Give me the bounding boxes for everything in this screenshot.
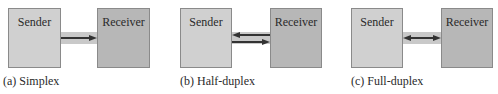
sender-label: Sender xyxy=(360,15,393,29)
arrow-right-icon xyxy=(89,35,97,41)
sender-label: Sender xyxy=(189,15,222,29)
caption: (c) Full-duplex xyxy=(351,74,423,89)
arrow-right-icon xyxy=(262,39,270,45)
receiver-box: Receiver xyxy=(441,8,493,68)
caption: (a) Simplex xyxy=(3,74,59,89)
arrow-line-left xyxy=(238,34,270,36)
arrow-line xyxy=(61,37,91,39)
receiver-box: Receiver xyxy=(270,8,322,68)
receiver-label: Receiver xyxy=(102,15,145,29)
arrow-right-icon xyxy=(433,35,441,41)
receiver-box: Receiver xyxy=(97,8,150,68)
panel-half-duplex: Sender Receiver (b) Half-duplex xyxy=(166,0,332,94)
caption: (b) Half-duplex xyxy=(180,74,255,89)
sender-box: Sender xyxy=(8,8,61,68)
receiver-label: Receiver xyxy=(446,15,489,29)
arrow-line-right xyxy=(232,41,264,43)
sender-box: Sender xyxy=(351,8,403,68)
sender-label: Sender xyxy=(18,15,51,29)
sender-box: Sender xyxy=(180,8,232,68)
receiver-label: Receiver xyxy=(275,15,318,29)
arrow-line xyxy=(409,37,435,39)
panel-simplex: Sender Receiver (a) Simplex xyxy=(0,0,166,94)
panel-full-duplex: Sender Receiver (c) Full-duplex xyxy=(332,0,498,94)
